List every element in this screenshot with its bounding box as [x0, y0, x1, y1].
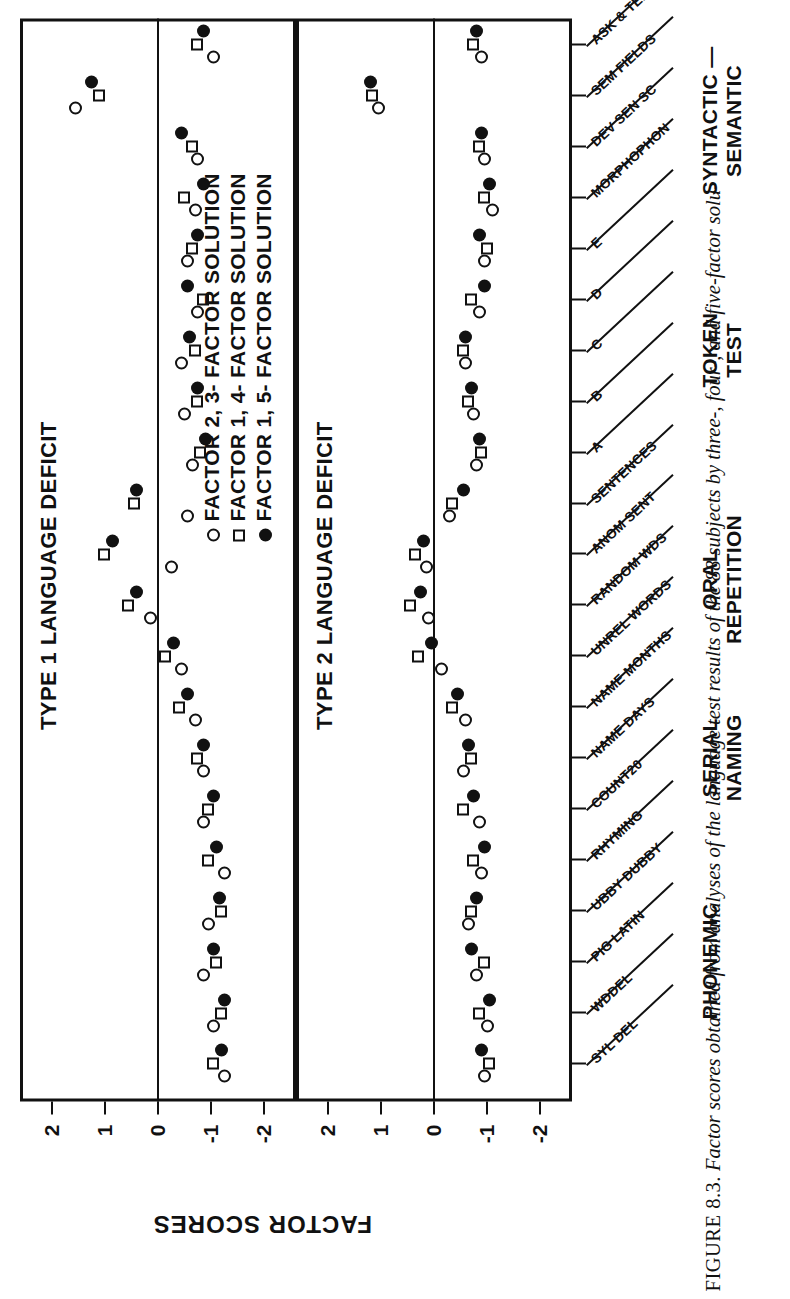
data-point-open-circle	[202, 917, 215, 930]
data-point-square	[409, 548, 421, 560]
data-point-square	[98, 548, 110, 560]
data-point-square	[178, 191, 190, 203]
data-point-square	[191, 39, 203, 51]
data-point-open-circle	[189, 713, 202, 726]
y-axis-tick	[539, 1101, 541, 1114]
data-point-filled-circle	[130, 585, 143, 598]
data-point-filled-circle	[213, 891, 226, 904]
x-axis-tick	[572, 756, 586, 758]
data-point-open-circle	[473, 305, 486, 318]
data-point-square	[202, 854, 214, 866]
data-point-square	[446, 497, 458, 509]
data-point-filled-circle	[459, 330, 472, 343]
x-axis-tick	[572, 145, 586, 147]
x-axis-test-label: SYL DEL	[588, 1015, 641, 1066]
data-point-open-circle	[470, 458, 483, 471]
data-point-square	[189, 344, 201, 356]
y-axis-tick	[210, 1101, 212, 1114]
data-point-open-circle	[181, 254, 194, 267]
data-point-filled-circle	[467, 789, 480, 802]
data-point-square	[173, 701, 185, 713]
data-point-open-circle	[178, 407, 191, 420]
data-point-open-circle	[372, 101, 385, 114]
panel-title-type1: TYPE 1 LANGUAGE DEFICIT	[36, 421, 62, 730]
figure-number: FIGURE 8.3.	[702, 1176, 724, 1291]
data-point-filled-circle	[425, 636, 438, 649]
data-point-square	[457, 803, 469, 815]
data-point-square	[457, 344, 469, 356]
x-axis-tick	[572, 349, 586, 351]
data-point-open-circle	[475, 866, 488, 879]
data-point-open-circle	[459, 713, 472, 726]
y-axis-tick-label: 0	[422, 1117, 446, 1136]
y-axis-tick	[51, 1101, 53, 1114]
y-axis-tick	[104, 1101, 106, 1114]
data-point-square	[473, 1007, 485, 1019]
x-axis-tick	[572, 400, 586, 402]
data-point-filled-circle	[470, 891, 483, 904]
figure-caption: FIGURE 8.3. Factor scores obtained from …	[700, 6, 727, 1291]
data-point-square	[475, 446, 487, 458]
data-point-open-circle	[457, 764, 470, 777]
y-axis-tick	[263, 1101, 265, 1114]
y-axis-tick-label: 0	[146, 1117, 170, 1136]
data-point-square	[483, 1058, 495, 1070]
data-point-open-circle	[481, 1019, 494, 1032]
figure-canvas: TYPE 1 LANGUAGE DEFICIT TYPE 2 LANGUAGE …	[0, 0, 790, 1299]
data-point-square	[366, 89, 378, 101]
data-point-square	[467, 854, 479, 866]
data-point-open-circle	[459, 356, 472, 369]
data-point-filled-circle	[364, 75, 377, 88]
x-axis-tick	[572, 298, 586, 300]
data-point-filled-circle	[473, 432, 486, 445]
legend-marker-filled-circle-icon	[259, 528, 272, 541]
x-axis-tick	[572, 858, 586, 860]
data-point-square	[202, 803, 214, 815]
x-axis-test-label: WDDEL	[588, 970, 635, 1015]
data-point-square	[478, 191, 490, 203]
y-axis-tick-label: -1	[199, 1117, 223, 1143]
data-point-open-circle	[486, 203, 499, 216]
data-point-filled-circle	[470, 25, 483, 38]
data-point-open-circle	[478, 152, 491, 165]
panel-title-type2: TYPE 2 LANGUAGE DEFICIT	[312, 421, 338, 730]
data-point-square	[93, 89, 105, 101]
data-point-filled-circle	[85, 75, 98, 88]
data-point-square	[186, 140, 198, 152]
x-axis-tick	[572, 43, 586, 45]
data-point-filled-circle	[451, 687, 464, 700]
legend-entry-label: FACTOR 2, 3- FACTOR SOLUTION	[200, 173, 224, 521]
y-axis-tick-label: 2	[316, 1117, 340, 1136]
data-point-filled-circle	[483, 177, 496, 190]
data-point-square	[467, 39, 479, 51]
data-point-square	[207, 1058, 219, 1070]
data-point-square	[481, 242, 493, 254]
x-axis-tick	[572, 807, 586, 809]
data-point-open-circle	[422, 611, 435, 624]
data-point-square	[159, 650, 171, 662]
x-axis-tick	[572, 909, 586, 911]
x-axis-test-label: COUNT20	[588, 756, 645, 811]
y-axis-tick	[157, 1101, 159, 1114]
legend-marker-square-icon	[233, 529, 245, 541]
x-axis-tick	[572, 1062, 586, 1064]
y-axis-tick	[433, 1101, 435, 1114]
data-point-square	[404, 599, 416, 611]
data-point-square	[215, 1007, 227, 1019]
y-axis-tick-label: 1	[369, 1117, 393, 1136]
data-point-filled-circle	[417, 534, 430, 547]
x-axis-test-label: PIG LATIN	[588, 907, 648, 964]
data-point-open-circle	[175, 662, 188, 675]
data-point-open-circle	[218, 866, 231, 879]
data-point-open-circle	[197, 815, 210, 828]
data-point-square	[473, 140, 485, 152]
data-point-open-circle	[462, 917, 475, 930]
data-point-square	[210, 956, 222, 968]
x-axis-tick	[572, 502, 586, 504]
x-axis-tick	[572, 247, 586, 249]
data-point-filled-circle	[130, 483, 143, 496]
data-point-open-circle	[186, 458, 199, 471]
x-axis-tick	[572, 196, 586, 198]
x-axis-tick	[572, 553, 586, 555]
data-point-square	[462, 395, 474, 407]
